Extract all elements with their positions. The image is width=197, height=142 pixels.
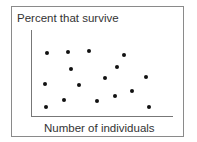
- data-point: [66, 50, 70, 54]
- data-point: [43, 82, 47, 86]
- data-point: [77, 83, 81, 87]
- x-axis-line: [31, 116, 173, 117]
- y-axis-line: [31, 30, 32, 117]
- data-point: [115, 65, 119, 69]
- data-point: [103, 76, 107, 80]
- data-point: [69, 67, 73, 71]
- data-point: [95, 99, 99, 103]
- data-point: [44, 105, 48, 109]
- data-point: [130, 89, 134, 93]
- data-point: [147, 105, 151, 109]
- data-point: [45, 51, 49, 55]
- data-point: [87, 49, 91, 53]
- data-point: [113, 94, 117, 98]
- data-point: [62, 98, 66, 102]
- x-axis-label: Number of individuals: [44, 122, 155, 134]
- chart-frame: [11, 6, 184, 137]
- data-point: [144, 75, 148, 79]
- y-axis-label: Percent that survive: [17, 12, 119, 24]
- data-point: [122, 53, 126, 57]
